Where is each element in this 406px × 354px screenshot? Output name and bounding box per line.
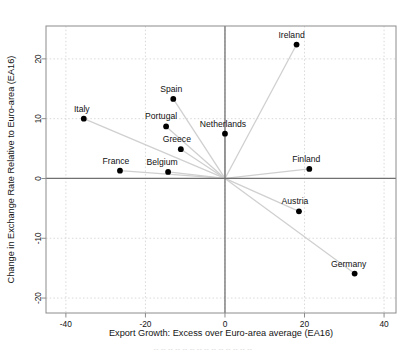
y-tick-label-2: 0 <box>33 176 43 181</box>
data-point-austria <box>296 208 302 214</box>
point-label-spain: Spain <box>160 84 182 94</box>
point-label-belgium: Belgium <box>147 157 178 167</box>
data-points: IrelandSpainItalyPortugalNetherlandsGree… <box>74 30 367 277</box>
axis-ticks: -40-2002040-20-1001020 <box>33 54 389 329</box>
data-point-ireland <box>294 42 300 48</box>
x-axis-title: Export Growth: Excess over Euro-area ave… <box>109 328 333 338</box>
y-tick-label-4: 20 <box>33 54 43 64</box>
data-point-netherlands <box>222 131 228 137</box>
x-tick-label-0: -40 <box>60 319 72 329</box>
point-label-netherlands: Netherlands <box>200 119 246 129</box>
grid-lines <box>46 26 396 313</box>
data-point-portugal <box>163 124 169 130</box>
data-point-italy <box>81 116 87 122</box>
y-tick-label-1: -10 <box>33 232 43 244</box>
chart-figure: -40-2002040-20-1001020 IrelandSpainItaly… <box>0 0 406 354</box>
x-tick-label-4: 40 <box>379 319 389 329</box>
data-point-finland <box>306 166 312 172</box>
plot-frame <box>46 26 396 313</box>
scatter-plot: -40-2002040-20-1001020 IrelandSpainItaly… <box>0 0 406 354</box>
point-label-germany: Germany <box>331 259 367 269</box>
data-point-belgium <box>165 169 171 175</box>
point-label-greece: Greece <box>163 134 191 144</box>
point-label-italy: Italy <box>74 104 90 114</box>
data-point-spain <box>170 96 176 102</box>
y-tick-label-0: -20 <box>33 292 43 304</box>
axis-lines <box>46 26 396 313</box>
data-point-greece <box>178 146 184 152</box>
point-label-ireland: Ireland <box>278 30 304 40</box>
point-label-finland: Finland <box>292 154 320 164</box>
point-label-france: France <box>103 156 130 166</box>
point-label-portugal: Portugal <box>145 111 177 121</box>
y-axis-title: Change in Exchange Rate Relative to Euro… <box>6 56 16 284</box>
data-point-france <box>117 168 123 174</box>
y-tick-label-3: 10 <box>33 114 43 124</box>
point-label-austria: Austria <box>282 196 309 206</box>
cut-off-caption: -- -- -- -- -- -- -- -- -- -- -- -- -- -… <box>0 344 406 354</box>
data-point-germany <box>352 271 358 277</box>
